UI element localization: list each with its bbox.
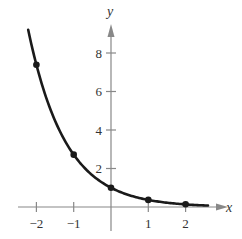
y-tick-label: 6 — [96, 84, 103, 99]
data-point — [108, 184, 115, 191]
y-tick-label: 8 — [96, 46, 103, 61]
y-axis-arrow-icon — [108, 24, 115, 37]
data-point — [182, 201, 189, 208]
axes — [18, 24, 228, 231]
x-tick-label: −1 — [67, 216, 81, 231]
y-tick-label: 2 — [96, 161, 103, 176]
x-tick-label: 2 — [182, 216, 189, 231]
data-point — [33, 61, 40, 68]
x-tick-label: 1 — [145, 216, 152, 231]
data-point — [70, 151, 77, 158]
exponential-decay-chart: −2−1122468 x y — [0, 0, 242, 239]
x-axis-label: x — [225, 200, 233, 215]
y-tick-label: 4 — [96, 123, 103, 138]
curve-line — [28, 30, 208, 206]
y-axis-label: y — [105, 4, 114, 19]
x-tick-label: −2 — [29, 216, 43, 231]
data-point — [145, 197, 152, 204]
